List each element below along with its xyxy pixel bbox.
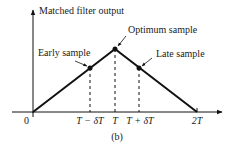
late-sample-label: Late sample: [156, 48, 205, 59]
late-sample-dot: [137, 66, 142, 71]
early-sample-label: Early sample: [38, 47, 91, 58]
tick-t-minus-delta: T − δT: [76, 115, 105, 126]
optimum-sample-label: Optimum sample: [128, 24, 198, 35]
tick-two-t: 2T: [192, 115, 204, 126]
tick-t-plus-delta: T + δT: [126, 115, 155, 126]
early-sample-dot: [88, 66, 93, 71]
early-late-gate-diagram: Matched filter output Optimum sample Ear…: [0, 0, 234, 150]
figure-caption: (b): [111, 131, 123, 143]
optimum-arrow: [118, 36, 126, 46]
y-axis-label: Matched filter output: [39, 5, 124, 16]
tick-t: T: [112, 115, 119, 126]
optimum-sample-dot: [113, 47, 118, 52]
tick-origin: 0: [24, 115, 29, 126]
late-arrow: [142, 58, 152, 66]
early-arrow: [75, 61, 87, 66]
